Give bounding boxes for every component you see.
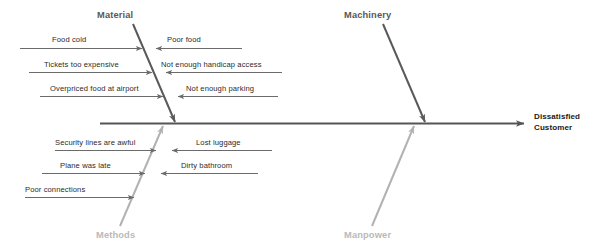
cause-label-overpriced-food-at-airport: Overpriced food at airport <box>50 84 139 94</box>
cause-label-poor-connections: Poor connections <box>25 185 85 195</box>
fishbone-canvas <box>0 0 608 250</box>
cause-label-not-enough-handicap-access: Not enough handicap access <box>161 60 262 70</box>
cause-label-not-enough-parking: Not enough parking <box>186 84 254 94</box>
category-label-material: Material <box>97 10 133 21</box>
cause-label-lost-luggage: Lost luggage <box>196 138 241 148</box>
bone-machinery <box>383 24 425 122</box>
category-bones-group <box>120 24 425 226</box>
category-label-manpower: Manpower <box>344 230 391 241</box>
fishbone-diagram: Material Machinery Methods Manpower Food… <box>0 0 608 250</box>
category-label-machinery: Machinery <box>344 10 391 21</box>
cause-label-food-cold: Food cold <box>52 35 86 45</box>
cause-label-dirty-bathroom: Dirty bathroom <box>181 161 232 171</box>
cause-label-plane-was-late: Plane was late <box>60 161 111 171</box>
bone-manpower <box>372 126 414 226</box>
effect-label-line1: Dissatisfied <box>534 112 580 122</box>
effect-label-line2: Customer <box>534 123 572 133</box>
cause-label-poor-food: Poor food <box>167 35 201 45</box>
cause-label-tickets-too-expensive: Tickets too expensive <box>44 60 119 70</box>
cause-label-security-lines-are-awful: Security lines are awful <box>55 138 135 148</box>
category-label-methods: Methods <box>96 230 135 241</box>
